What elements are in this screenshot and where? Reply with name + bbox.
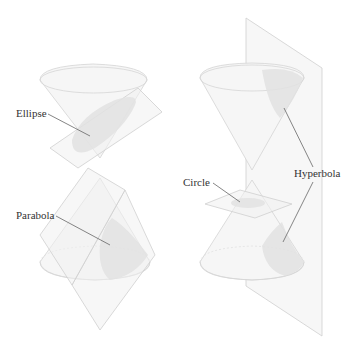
parabola-plane — [40, 168, 155, 330]
conic-sections-diagram: Ellipse Parabola Circle Hyperbola — [0, 0, 354, 354]
label-parabola: Parabola — [16, 209, 55, 221]
label-hyperbola: Hyperbola — [294, 167, 341, 179]
label-circle: Circle — [183, 176, 210, 188]
label-ellipse: Ellipse — [16, 107, 47, 119]
